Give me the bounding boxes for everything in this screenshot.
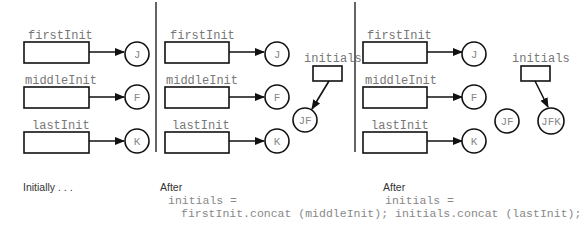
- var-label-firstInit: firstInit: [28, 29, 93, 43]
- var-box-lastInit: [363, 132, 427, 153]
- string-value: K: [274, 136, 281, 148]
- code-line: initials.concat (lastInit);: [395, 207, 581, 220]
- string-value: F: [274, 92, 281, 104]
- string-value: K: [471, 136, 478, 148]
- string-value: J: [471, 49, 478, 61]
- string-value: J: [274, 49, 281, 61]
- caption-initially: Initially . . .: [23, 181, 73, 193]
- var-label-firstInit: firstInit: [367, 29, 432, 43]
- string-value: F: [471, 92, 478, 104]
- panel-after-second-concat: firstInit J middleInit F lastInit K init…: [363, 29, 581, 220]
- var-box-initials: [313, 66, 342, 81]
- string-value: K: [134, 136, 141, 148]
- string-reference-diagram: firstInit J middleInit F lastInit K Init…: [0, 0, 584, 225]
- string-value: F: [134, 92, 141, 104]
- var-label-firstInit: firstInit: [170, 29, 235, 43]
- caption-after: After: [383, 181, 406, 193]
- var-box-middleInit: [24, 87, 89, 108]
- var-label-lastInit: lastInit: [371, 119, 429, 133]
- var-box-lastInit: [165, 132, 229, 153]
- var-box-middleInit: [165, 87, 229, 108]
- string-value: JFK: [541, 116, 561, 128]
- var-label-lastInit: lastInit: [32, 119, 90, 133]
- panel-after-first-concat: firstInit J middleInit F lastInit K init…: [160, 29, 388, 220]
- reference-arrow: [535, 81, 548, 107]
- var-label-initials: initials: [304, 52, 362, 66]
- code-line: initials =: [168, 194, 237, 207]
- var-box-firstInit: [165, 42, 229, 63]
- reference-arrow: [312, 81, 329, 109]
- var-label-lastInit: lastInit: [172, 119, 230, 133]
- code-line: firstInit.concat (middleInit);: [181, 207, 388, 220]
- code-line: initials =: [385, 194, 454, 207]
- var-label-middleInit: middleInit: [25, 74, 97, 88]
- var-box-lastInit: [24, 132, 89, 153]
- string-value: JF: [500, 116, 513, 128]
- panel-initial: firstInit J middleInit F lastInit K Init…: [23, 29, 149, 193]
- string-value: JF: [298, 115, 311, 127]
- var-box-firstInit: [24, 42, 89, 63]
- caption-after: After: [160, 181, 183, 193]
- var-label-middleInit: middleInit: [166, 74, 238, 88]
- string-value: J: [134, 49, 141, 61]
- var-box-initials: [521, 66, 550, 81]
- var-label-initials: initials: [512, 52, 570, 66]
- var-label-middleInit: middleInit: [365, 74, 437, 88]
- var-box-middleInit: [363, 87, 427, 108]
- var-box-firstInit: [363, 42, 427, 63]
